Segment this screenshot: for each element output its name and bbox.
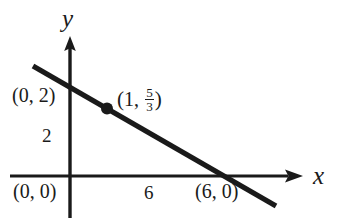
linear-graph-figure: y x (0, 2) (1, 53) 2 (0, 0) 6 (6, 0): [0, 0, 344, 218]
marked-point-label: (1, 53): [117, 86, 162, 114]
y-tick-label-2: 2: [42, 126, 52, 145]
fraction-numerator: 5: [145, 86, 155, 100]
x-axis-label: x: [313, 163, 324, 188]
marked-point-fraction: 53: [145, 86, 155, 114]
marked-point-x-value: 1: [124, 88, 134, 110]
origin-label: (0, 0): [13, 181, 56, 201]
marked-point-open-paren: (: [117, 87, 124, 111]
marked-point-dot: [101, 103, 113, 115]
marked-point-comma: ,: [134, 88, 144, 110]
fraction-denominator: 3: [145, 100, 155, 113]
y-intercept-label: (0, 2): [12, 85, 55, 105]
x-tick-label-6: 6: [144, 183, 154, 202]
x-intercept-label: (6, 0): [195, 181, 238, 201]
y-axis-label: y: [62, 6, 73, 31]
marked-point-close-paren: ): [155, 87, 162, 111]
